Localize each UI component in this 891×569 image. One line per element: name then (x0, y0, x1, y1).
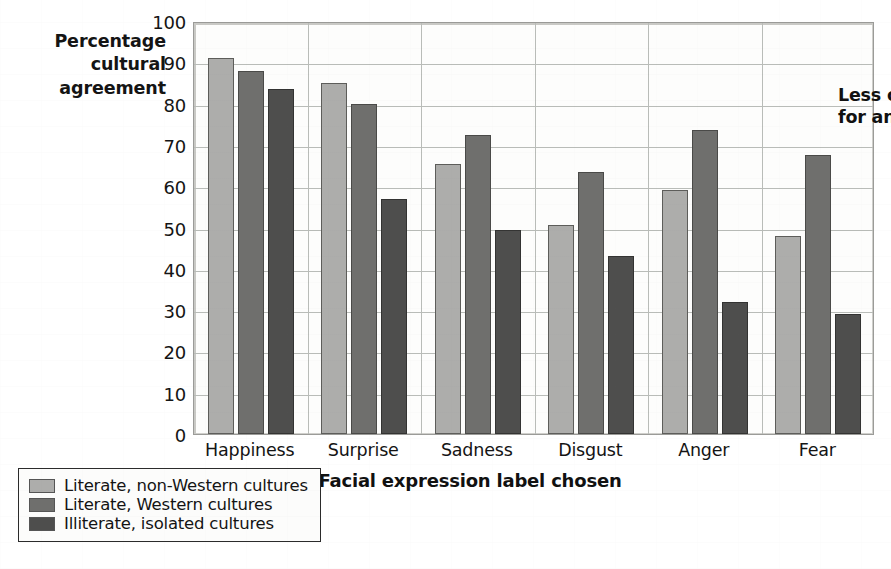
chart-legend: Literate, non-Western culturesLiterate, … (18, 468, 321, 542)
annotation-line-2: for anger and fear (838, 107, 891, 129)
x-axis-tick-disgust: Disgust (558, 440, 622, 460)
bar-happiness-series-0 (208, 58, 234, 434)
legend-label-0: Literate, non-Western cultures (64, 476, 308, 495)
legend-item-0: Literate, non-Western cultures (29, 476, 308, 495)
bar-chart-figure: Percentage cultural agreement 0102030405… (0, 0, 891, 569)
bar-series-container (194, 23, 873, 434)
x-axis-tick-surprise: Surprise (328, 440, 399, 460)
y-axis-tick-60: 60 (138, 177, 186, 198)
x-axis-tick-labels: HappinessSurpriseSadnessDisgustAngerFear (193, 440, 874, 466)
bar-happiness-series-1 (238, 71, 264, 434)
bar-sadness-series-1 (465, 135, 491, 434)
bar-disgust-series-0 (548, 225, 574, 434)
y-axis-tick-20: 20 (138, 342, 186, 363)
y-axis-tick-50: 50 (138, 218, 186, 239)
y-axis-tick-0: 0 (138, 425, 186, 446)
chart-annotation: Less cultural consensus for anger and fe… (838, 85, 891, 128)
bar-fear-series-0 (775, 236, 801, 434)
legend-swatch-icon-2 (29, 517, 55, 531)
legend-swatch-icon-0 (29, 479, 55, 493)
legend-swatch-icon-1 (29, 498, 55, 512)
y-axis-tick-80: 80 (138, 94, 186, 115)
bar-fear-series-2 (835, 314, 861, 434)
legend-item-2: Illiterate, isolated cultures (29, 514, 308, 533)
y-axis-tick-100: 100 (138, 12, 186, 33)
y-axis-tick-90: 90 (138, 53, 186, 74)
bar-disgust-series-2 (608, 256, 634, 434)
bar-disgust-series-1 (578, 172, 604, 434)
y-axis-tick-30: 30 (138, 301, 186, 322)
y-axis-tick-10: 10 (138, 383, 186, 404)
x-axis-tick-sadness: Sadness (441, 440, 513, 460)
y-axis-tick-40: 40 (138, 259, 186, 280)
legend-label-1: Literate, Western cultures (64, 495, 272, 514)
bar-happiness-series-2 (268, 89, 294, 434)
bar-surprise-series-0 (321, 83, 347, 434)
x-axis-title: Facial expression label chosen (260, 470, 680, 491)
plot-area: Less cultural consensus for anger and fe… (193, 22, 874, 435)
bar-anger-series-0 (662, 190, 688, 434)
bar-surprise-series-2 (381, 199, 407, 434)
bar-sadness-series-2 (495, 230, 521, 434)
bar-surprise-series-1 (351, 104, 377, 434)
y-axis-tick-labels: 0102030405060708090100 (138, 22, 186, 435)
x-axis-tick-happiness: Happiness (205, 440, 294, 460)
legend-item-1: Literate, Western cultures (29, 495, 308, 514)
x-axis-tick-fear: Fear (799, 440, 836, 460)
x-axis-tick-anger: Anger (678, 440, 729, 460)
y-axis-tick-70: 70 (138, 135, 186, 156)
bar-anger-series-1 (692, 130, 718, 434)
bar-anger-series-2 (722, 302, 748, 434)
bar-sadness-series-0 (435, 164, 461, 435)
bar-fear-series-1 (805, 155, 831, 434)
annotation-line-1: Less cultural consensus (838, 85, 891, 107)
legend-label-2: Illiterate, isolated cultures (64, 514, 274, 533)
